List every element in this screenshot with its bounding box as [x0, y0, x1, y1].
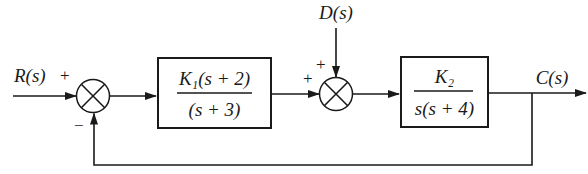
summing-junction-2 [320, 78, 353, 111]
disturbance-label-d: D(s) [318, 2, 353, 24]
summing-junction-1 [77, 80, 110, 113]
block-diagram: R(s) + − K₁(s + 2) (s + 3) + D(s) + K₂ s… [0, 0, 588, 174]
block1-numerator: K₁(s + 2) [178, 68, 250, 90]
sum2-plus-left-sign: + [303, 69, 313, 88]
input-label-r: R(s) [13, 65, 46, 87]
sum1-plus-sign: + [60, 66, 70, 85]
sum2-plus-top-sign: + [316, 55, 326, 74]
sum1-minus-sign: − [74, 116, 84, 135]
output-label-c: C(s) [536, 67, 569, 89]
block2-numerator: K₂ [434, 66, 455, 87]
block1-denominator: (s + 3) [189, 99, 241, 121]
block2-denominator: s(s + 4) [415, 98, 474, 120]
